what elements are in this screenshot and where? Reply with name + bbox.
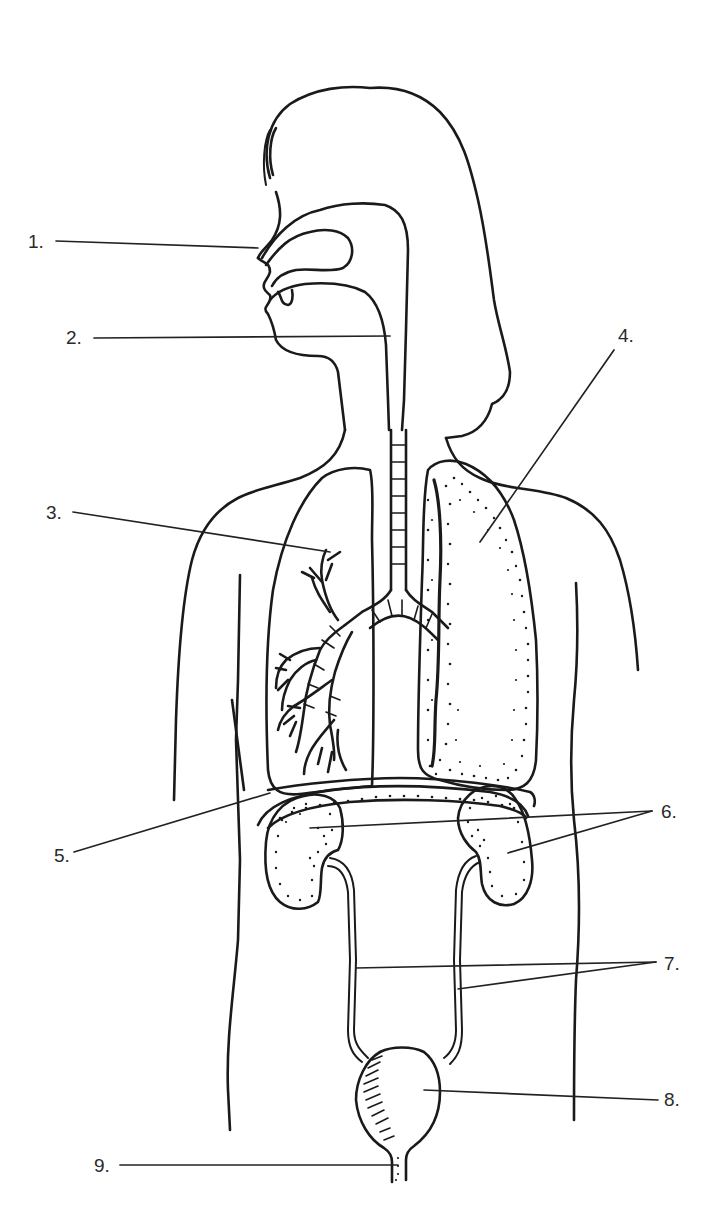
- label-3-bronchus: 3.: [46, 503, 62, 522]
- nasal-cavity: [262, 203, 408, 430]
- label-7-ureters: 7.: [664, 954, 680, 973]
- ureters: [328, 856, 480, 1064]
- bronchial-tree: [276, 550, 352, 774]
- trachea: [345, 430, 448, 640]
- bladder: [356, 1048, 440, 1183]
- leader-2: [94, 336, 390, 338]
- leader-4: [480, 350, 614, 542]
- leader-lines: [56, 241, 658, 1165]
- head-outline: [258, 87, 510, 438]
- lung-right-view: [418, 461, 538, 790]
- label-8-bladder: 8.: [664, 1090, 680, 1109]
- leader-7a: [356, 962, 656, 968]
- label-4-lung: 4.: [618, 326, 634, 345]
- urethra-stipple: [395, 1157, 399, 1181]
- label-5-diaphragm: 5.: [54, 846, 70, 865]
- anatomy-diagram: [0, 0, 723, 1227]
- leader-3: [73, 512, 330, 552]
- lung-left-view: [266, 468, 373, 794]
- label-2-trachea: 2.: [66, 328, 82, 347]
- bladder-hatching: [364, 1056, 394, 1140]
- label-6-kidneys: 6.: [661, 802, 677, 821]
- leader-1: [56, 241, 258, 248]
- leader-8: [424, 1090, 658, 1100]
- kidney-left-view: [265, 795, 342, 909]
- label-1-nostril: 1.: [28, 232, 44, 251]
- label-9-urethra: 9.: [94, 1156, 110, 1175]
